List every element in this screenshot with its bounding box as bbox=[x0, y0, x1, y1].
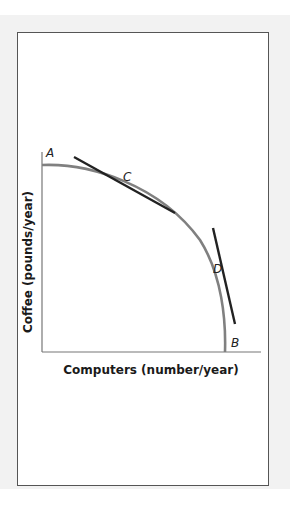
chart-plot-area bbox=[0, 0, 290, 520]
x-axis-label: Computers (number/year) bbox=[63, 363, 238, 377]
ppf-curve bbox=[42, 165, 225, 352]
point-label-c: C bbox=[123, 171, 131, 183]
tangent-line-c bbox=[74, 157, 175, 213]
point-label-a: A bbox=[46, 147, 54, 159]
point-label-d: D bbox=[213, 263, 222, 275]
y-axis-label: Coffee (pounds/year) bbox=[21, 191, 35, 333]
point-label-b: B bbox=[231, 337, 239, 349]
